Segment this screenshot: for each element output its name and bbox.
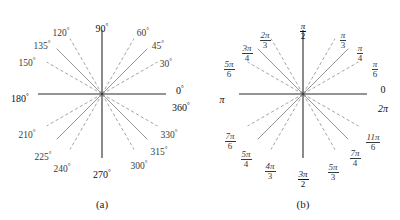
label-45-deg: 45° (158, 42, 170, 52)
label-270-deg: 270° (102, 170, 120, 180)
label-11pi-over-6: 11π6 (373, 133, 388, 153)
label-5pi-over-6: 5π6 (229, 60, 240, 80)
label-30-deg: 30° (166, 60, 178, 70)
label-360-deg: 360° (181, 103, 199, 113)
label-120-deg: 120° (61, 29, 78, 39)
label-7pi-over-4: 7π4 (355, 149, 366, 169)
label-0-deg: 0° (180, 86, 188, 96)
label-pi-over-2: π2 (303, 22, 310, 42)
angle-reference-figure: 90° 60° 45° 30° 0° 360° 330° 315° 300° 2… (0, 0, 400, 220)
label-180-deg: 180° (20, 94, 38, 104)
label-pi-over-6: π6 (375, 60, 382, 80)
label-225-deg: 225° (43, 153, 60, 163)
panel-degrees: 90° 60° 45° 30° 0° 360° 330° 315° 300° 2… (0, 0, 200, 220)
label-pi-over-4: π4 (360, 44, 367, 64)
label-315-deg: 315° (159, 148, 176, 158)
label-4pi-over-3: 4π3 (270, 162, 281, 182)
label-pi-over-3: π3 (343, 31, 350, 51)
label-zero-radians: 0 (383, 85, 388, 95)
label-2pi-over-3: 2π3 (265, 31, 276, 51)
label-90-deg: 90° (102, 24, 115, 34)
label-300-deg: 300° (139, 162, 156, 172)
caption-panel-b: (b) (303, 198, 316, 210)
label-330-deg: 330° (169, 131, 186, 141)
label-pi: π (222, 95, 227, 105)
label-60-deg: 60° (143, 29, 155, 39)
caption-panel-a: (a) (102, 198, 114, 210)
label-5pi-over-4: 5π4 (246, 150, 257, 170)
panel-radians: π2 π3 π4 π6 0 2π 11π6 7π4 5π3 3π2 4π3 5π… (200, 0, 400, 220)
label-150-deg: 150° (27, 59, 44, 69)
label-210-deg: 210° (27, 131, 44, 141)
label-3pi-over-4: 3π4 (247, 44, 258, 64)
label-7pi-over-6: 7π6 (230, 132, 241, 152)
label-135-deg: 135° (42, 42, 59, 52)
label-5pi-over-3: 5π3 (333, 163, 344, 183)
label-3pi-over-2: 3π2 (303, 170, 314, 190)
label-two-pi: 2π (383, 104, 393, 114)
label-240-deg: 240° (62, 165, 79, 175)
